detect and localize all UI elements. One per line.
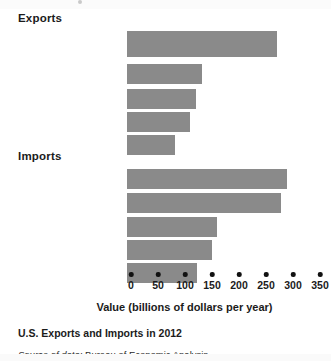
- axis-tick-dot: [129, 272, 134, 277]
- bar: [127, 31, 277, 57]
- group-heading-imports: Imports: [18, 150, 62, 162]
- chart-plot-area: Exports Business, professional, and tech…: [0, 9, 331, 299]
- axis-tick-dot: [318, 272, 323, 277]
- bar: [127, 112, 190, 132]
- bar: [127, 193, 281, 213]
- axis-tick-label: 300: [284, 279, 302, 291]
- axis-tick-label: 50: [152, 279, 164, 291]
- axis-tick-dot: [183, 272, 188, 277]
- axis-tick-dot: [264, 272, 269, 277]
- axis-tick-label: 150: [203, 279, 221, 291]
- axis-tick-label: 0: [128, 279, 134, 291]
- axis-tick-label: 350: [311, 279, 329, 291]
- bar: [127, 217, 217, 237]
- bar: [127, 135, 175, 155]
- axis-tick-dot: [291, 272, 296, 277]
- page-edge-artifact-top: [0, 0, 331, 9]
- axis-tick-label: 100: [176, 279, 194, 291]
- bar: [127, 89, 196, 109]
- figure-container: Exports Business, professional, and tech…: [0, 0, 331, 361]
- bar: [127, 169, 287, 189]
- page-edge-artifact-bottom: [0, 354, 331, 361]
- x-axis-title: Value (billions of dollars per year): [0, 301, 331, 313]
- bar: [127, 64, 202, 84]
- axis-tick-label: 250: [257, 279, 275, 291]
- axis-tick-dot: [237, 272, 242, 277]
- axis-tick-label: 200: [230, 279, 248, 291]
- axis-tick-dot: [156, 272, 161, 277]
- page-speck-icon: [78, 0, 82, 4]
- axis-tick-dot: [210, 272, 215, 277]
- group-heading-exports: Exports: [18, 12, 62, 24]
- x-axis: 050100150200250300350: [0, 272, 331, 302]
- bar: [127, 240, 212, 260]
- figure-caption: U.S. Exports and Imports in 2012: [18, 327, 182, 339]
